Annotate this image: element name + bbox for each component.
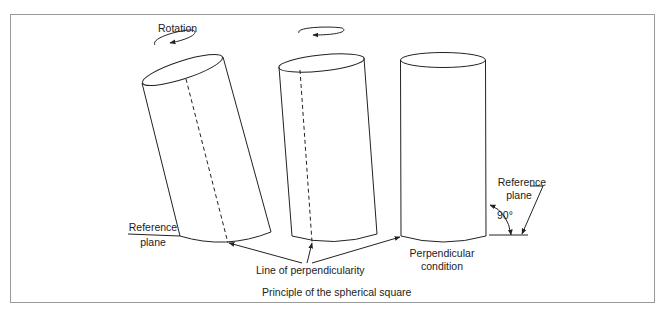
rotation-arrow-icon-2 — [299, 27, 344, 35]
angle-90-label: 90° — [497, 209, 513, 221]
figure-caption: Principle of the spherical square — [262, 286, 411, 298]
reference-plane-left-label-1: Reference — [128, 221, 178, 233]
reference-plane-right-label-1: Reference — [494, 176, 550, 188]
rotation-label: Rotation — [158, 22, 197, 34]
dashed-perpendicular-line-1 — [186, 79, 228, 243]
perpendicular-condition-label-1: Perpendicular — [402, 247, 482, 259]
reference-plane-left-label-2: plane — [128, 236, 178, 248]
reference-plane-right-label-2: plane — [494, 189, 544, 201]
upright-cylinder — [401, 53, 487, 243]
spherical-square-diagram: Rotation Reference plane Line of perpend… — [0, 0, 664, 311]
tilted-cylinder — [140, 48, 271, 243]
perpendicular-condition-label-2: condition — [402, 260, 482, 272]
slightly-tilted-cylinder — [278, 51, 377, 242]
dashed-perpendicular-line-2 — [300, 70, 312, 242]
line-of-perpendicularity-label: Line of perpendicularity — [256, 264, 365, 276]
